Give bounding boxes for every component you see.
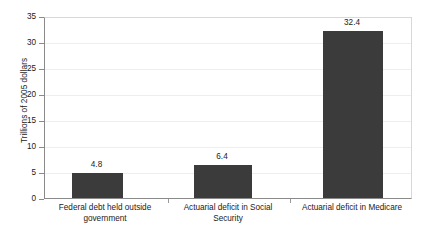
- y-tick-label-15: 15: [6, 117, 36, 125]
- bar-value-medicare: 32.4: [322, 19, 382, 27]
- y-tick-label-35: 35: [6, 13, 36, 21]
- y-tick-label-25: 25: [6, 65, 36, 73]
- plot-area: [44, 17, 412, 199]
- category-label-social-security: Actuarial deficit in Social Security: [163, 203, 293, 224]
- y-tick-mark-0: [39, 199, 44, 200]
- bar-social-security: [194, 165, 252, 198]
- category-label-line-1: Actuarial deficit in Social: [163, 203, 293, 214]
- bar-chart: Trillions of 2005 dollars 0 5 10 15 20 2…: [0, 0, 421, 236]
- category-label-line-1: Actuarial deficit in Medicare: [285, 203, 419, 214]
- y-tick-label-20: 20: [6, 91, 36, 99]
- category-label-medicare: Actuarial deficit in Medicare: [285, 203, 419, 214]
- y-tick-label-5: 5: [6, 169, 36, 177]
- bar-value-social-security: 6.4: [193, 153, 251, 161]
- category-label-line-1: Federal debt held outside: [40, 203, 170, 214]
- y-tick-label-30: 30: [6, 39, 36, 47]
- bar-federal-debt: [72, 173, 123, 198]
- bar-medicare: [323, 31, 383, 198]
- category-label-line-2: government: [40, 214, 170, 225]
- category-label-line-2: Security: [163, 214, 293, 225]
- y-tick-label-10: 10: [6, 143, 36, 151]
- category-label-federal-debt: Federal debt held outside government: [40, 203, 170, 224]
- y-tick-label-0: 0: [6, 195, 36, 203]
- bar-value-federal-debt: 4.8: [71, 161, 122, 169]
